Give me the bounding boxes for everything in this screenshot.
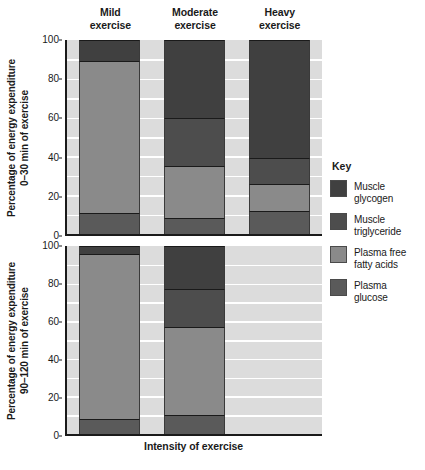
- x-axis-label: Intensity of exercise: [65, 440, 322, 452]
- chart-panel-bottom: Percentage of energy expenditure 90–120 …: [0, 246, 330, 436]
- y-tick-label: 100: [42, 35, 59, 45]
- bar-segment-plasma-glucose[interactable]: [164, 415, 225, 434]
- y-tick-mark: [59, 360, 62, 361]
- y-tick-label: 100: [42, 241, 59, 251]
- bar-segment-muscle-glycogen[interactable]: [79, 246, 140, 254]
- legend-item[interactable]: Muscle glycogen: [330, 180, 425, 204]
- bar-slot: [152, 40, 237, 234]
- legend-item-label: Muscle triglyceride: [354, 213, 401, 237]
- legend-swatch-icon: [330, 279, 347, 296]
- bar-segment-muscle-glycogen[interactable]: [164, 40, 225, 118]
- bar-segment-muscle-glycogen[interactable]: [164, 246, 225, 289]
- stacked-bar-figure: Mild exercise Moderate exercise Heavy ex…: [0, 0, 425, 470]
- bar-slot: [152, 246, 237, 434]
- bar-segment-muscle-triglyceride[interactable]: [164, 289, 225, 327]
- y-tick-mark: [59, 79, 62, 80]
- bar-slot: [237, 246, 322, 434]
- y-tick-mark: [59, 322, 62, 323]
- column-header-heavy-line2: exercise: [237, 19, 322, 32]
- bar-segment-plasma-free-fatty-acids[interactable]: [249, 184, 310, 211]
- column-header-moderate: Moderate exercise: [153, 6, 238, 40]
- bar-segment-plasma-free-fatty-acids[interactable]: [79, 61, 140, 212]
- legend-item[interactable]: Plasma glucose: [330, 279, 425, 303]
- bar-segment-plasma-glucose[interactable]: [79, 213, 140, 234]
- column-header-mild: Mild exercise: [68, 6, 153, 40]
- stacked-bar[interactable]: [164, 246, 225, 434]
- y-axis-ticks-bottom: 020406080100: [34, 246, 62, 436]
- bar-segment-plasma-glucose[interactable]: [79, 419, 140, 434]
- bar-segment-plasma-free-fatty-acids[interactable]: [164, 327, 225, 415]
- legend-item[interactable]: Muscle triglyceride: [330, 213, 425, 237]
- bar-slot: [67, 246, 152, 434]
- y-tick-label: 80: [48, 74, 59, 84]
- bar-slot: [237, 40, 322, 234]
- legend-swatch-icon: [330, 246, 347, 263]
- column-header-heavy: Heavy exercise: [237, 6, 322, 40]
- column-header-mild-line1: Mild: [100, 6, 121, 18]
- legend-title: Key: [330, 160, 425, 172]
- bar-segment-plasma-glucose[interactable]: [249, 211, 310, 234]
- bar-segment-muscle-glycogen[interactable]: [249, 40, 310, 158]
- plot-area-bottom: [65, 246, 322, 436]
- bar-segment-plasma-free-fatty-acids[interactable]: [79, 254, 140, 419]
- column-header-moderate-line1: Moderate: [172, 6, 218, 18]
- legend-item[interactable]: Plasma free fatty acids: [330, 246, 425, 270]
- bar-group-bottom: [67, 246, 322, 434]
- bar-group-top: [67, 40, 322, 234]
- y-tick-label: 20: [48, 393, 59, 403]
- bar-segment-muscle-triglyceride[interactable]: [249, 158, 310, 183]
- plot-area-top: [65, 40, 322, 236]
- y-tick-label: 60: [48, 317, 59, 327]
- y-tick-mark: [59, 40, 62, 41]
- stacked-bar[interactable]: [79, 40, 140, 234]
- y-axis-title-top: Percentage of energy expenditure 0–30 mi…: [2, 40, 34, 236]
- y-tick-mark: [59, 157, 62, 158]
- y-tick-mark: [59, 236, 62, 237]
- legend-swatch-icon: [330, 180, 347, 197]
- column-header-moderate-line2: exercise: [153, 19, 238, 32]
- y-tick-mark: [59, 398, 62, 399]
- bar-segment-muscle-glycogen[interactable]: [79, 40, 140, 61]
- legend: Key Muscle glycogenMuscle triglyceridePl…: [330, 160, 425, 312]
- y-tick-mark: [59, 118, 62, 119]
- y-tick-label: 20: [48, 192, 59, 202]
- legend-item-label: Muscle glycogen: [354, 180, 393, 204]
- y-tick-label: 60: [48, 113, 59, 123]
- y-tick-mark: [59, 196, 62, 197]
- legend-items: Muscle glycogenMuscle triglyceridePlasma…: [330, 180, 425, 303]
- column-header-mild-line2: exercise: [68, 19, 153, 32]
- y-axis-ticks-top: 020406080100: [34, 40, 62, 236]
- legend-item-label: Plasma glucose: [354, 279, 388, 303]
- column-headers: Mild exercise Moderate exercise Heavy ex…: [68, 6, 322, 40]
- bar-segment-plasma-free-fatty-acids[interactable]: [164, 166, 225, 218]
- bar-segment-plasma-glucose[interactable]: [164, 218, 225, 234]
- y-tick-label: 40: [48, 355, 59, 365]
- y-tick-label: 80: [48, 279, 59, 289]
- y-tick-mark: [59, 246, 62, 247]
- stacked-bar[interactable]: [79, 246, 140, 434]
- bar-segment-muscle-triglyceride[interactable]: [164, 118, 225, 167]
- legend-swatch-icon: [330, 213, 347, 230]
- stacked-bar[interactable]: [164, 40, 225, 234]
- chart-panel-top: Percentage of energy expenditure 0–30 mi…: [0, 40, 330, 236]
- legend-item-label: Plasma free fatty acids: [354, 246, 406, 270]
- y-axis-title-bottom: Percentage of energy expenditure 90–120 …: [2, 246, 34, 436]
- y-tick-mark: [59, 436, 62, 437]
- y-tick-label: 40: [48, 153, 59, 163]
- stacked-bar[interactable]: [249, 40, 310, 234]
- y-tick-mark: [59, 284, 62, 285]
- bar-slot: [67, 40, 152, 234]
- column-header-heavy-line1: Heavy: [264, 6, 294, 18]
